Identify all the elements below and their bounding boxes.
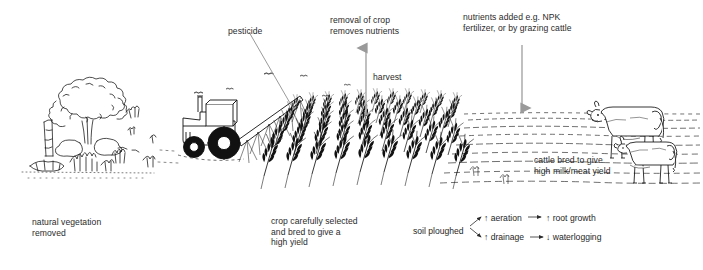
label-removal-of-crop: removal of crop removes nutrients	[330, 15, 399, 36]
label-aeration: ↑ aeration	[484, 212, 522, 225]
label-root-growth: ↑ root growth	[546, 212, 596, 225]
label-crop-selected: crop carefully selected and bred to give…	[271, 216, 358, 248]
diagram-canvas: pesticide removal of crop removes nutrie…	[0, 0, 703, 270]
label-cattle-bred: cattle bred to give high milk/meat yield	[534, 155, 610, 176]
label-pesticide: pesticide	[228, 26, 262, 37]
label-soil-ploughed: soil ploughed	[413, 225, 464, 238]
label-harvest: harvest	[373, 72, 402, 83]
label-nutrients-added: nutrients added e.g. NPK fertilizer, or …	[463, 12, 572, 33]
label-drainage: ↑ drainage	[484, 231, 524, 244]
label-waterlogging: ↓ waterlogging	[546, 231, 601, 244]
label-natural-vegetation: natural vegetation removed	[32, 217, 101, 238]
